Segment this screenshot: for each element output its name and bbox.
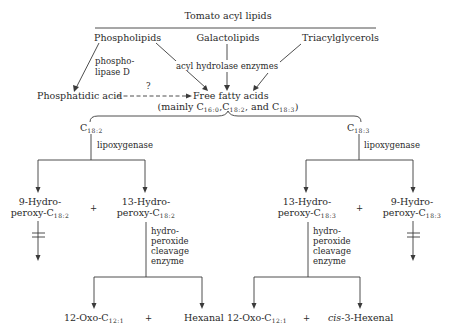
subscript: 18:2 (230, 106, 245, 113)
subscript: 12:1 (272, 317, 287, 324)
subscript: 16:0 (204, 106, 219, 113)
note-text: ,C (219, 101, 229, 112)
line2: peroxy-C18:2 (11, 207, 70, 221)
free-fatty-acids-note: (mainly C16:0,C18:2, and C18:3) (158, 101, 299, 115)
subscript: 18:3 (321, 212, 336, 219)
node-triacylglycerols: Triacylglycerols (302, 32, 379, 43)
product-12-oxo-c12-1-right: 12-Oxo-C12:1 (227, 312, 287, 326)
arrowhead (200, 303, 205, 309)
pathway-connectors (0, 0, 458, 333)
formula-base: peroxy-C (11, 207, 54, 218)
node-9-hydroperoxy-c18-2: 9-Hydro- peroxy-C18:2 (11, 196, 70, 221)
arrowhead (36, 187, 41, 193)
arrowhead (143, 187, 148, 193)
line1: 9-Hydro- (11, 196, 70, 207)
arrowhead (358, 303, 363, 309)
subscript: 18:2 (160, 212, 175, 219)
line: enzyme (313, 256, 351, 266)
node-c18-2: C18:2 (80, 122, 103, 136)
line: peroxide (313, 236, 351, 246)
arrowhead (186, 94, 192, 99)
arrowhead (92, 303, 97, 309)
note-text: ) (295, 101, 299, 112)
line1: 13-Hydro- (117, 196, 176, 207)
node-phosphatidic-acid: Phosphatidic acid (37, 90, 122, 101)
node-13-hydroperoxy-c18-3: 13-Hydro- peroxy-C18:3 (278, 196, 337, 221)
arrow-triacylglycerols-to-ffa-2 (256, 73, 268, 88)
line: hydro- (313, 226, 351, 236)
node-free-fatty-acids: Free fatty acids (193, 90, 269, 101)
enzyme-lipoxygenase-left: lipoxygenase (97, 140, 153, 150)
formula-base: -3-Hexenal (341, 312, 393, 323)
plus-sign: + (303, 313, 310, 323)
line: cleavage (151, 246, 189, 256)
note-text: (mainly C (158, 101, 204, 112)
node-phospholipids: Phospholipids (94, 32, 161, 43)
line1: 9-Hydro- (383, 196, 442, 207)
plus-sign: + (356, 203, 363, 213)
enzyme-hydroperoxide-cleavage-right: hydro- peroxide cleavage enzyme (313, 226, 351, 266)
node-galactolipids: Galactolipids (197, 32, 260, 43)
line2: peroxy-C18:3 (383, 207, 442, 221)
subscript: 18:3 (279, 106, 294, 113)
arrowhead (411, 187, 416, 193)
enzyme-phospholipase-d-line1: phospho- (95, 56, 134, 66)
product-cis-3-hexenal: cis-3-Hexenal (328, 312, 393, 323)
arrowhead (36, 255, 41, 261)
cis-prefix: cis (328, 312, 341, 323)
formula-base: peroxy-C (383, 207, 426, 218)
subscript: 18:2 (87, 127, 102, 134)
node-13-hydroperoxy-c18-2: 13-Hydro- peroxy-C18:2 (117, 196, 176, 221)
node-9-hydroperoxy-c18-3: 9-Hydro- peroxy-C18:3 (383, 196, 442, 221)
arrowhead (304, 187, 309, 193)
product-hexanal: Hexanal (184, 312, 224, 323)
enzyme-hydroperoxide-cleavage-left: hydro- peroxide cleavage enzyme (151, 226, 189, 266)
note-text: , and C (245, 101, 279, 112)
line2: peroxy-C18:2 (117, 207, 176, 221)
arrow-triacylglycerols-to-ffa (280, 44, 301, 62)
formula-base: peroxy-C (117, 207, 160, 218)
formula-base: peroxy-C (278, 207, 321, 218)
node-c18-3: C18:3 (347, 122, 370, 136)
subscript: 18:3 (354, 127, 369, 134)
line: enzyme (151, 256, 189, 266)
arrowhead (411, 255, 416, 261)
line: hydro- (151, 226, 189, 236)
diagram-title: Tomato acyl lipids (184, 10, 271, 21)
line: peroxide (151, 236, 189, 246)
line: cleavage (313, 246, 351, 256)
subscript: 12:1 (109, 317, 124, 324)
product-12-oxo-c12-1-left: 12-Oxo-C12:1 (64, 312, 124, 326)
enzyme-phospholipase-d-line2: lipase D (95, 67, 130, 77)
subscript: 18:3 (426, 212, 441, 219)
plus-sign: + (145, 313, 152, 323)
enzyme-lipoxygenase-right: lipoxygenase (364, 140, 420, 150)
formula-base: 12-Oxo-C (227, 312, 272, 323)
line1: 13-Hydro- (278, 196, 337, 207)
formula-base: 12-Oxo-C (64, 312, 109, 323)
enzyme-acyl-hydrolase: acyl hydrolase enzymes (174, 61, 280, 71)
line2: peroxy-C18:3 (278, 207, 337, 221)
plus-sign: + (90, 203, 97, 213)
arrowhead (252, 303, 257, 309)
subscript: 18:2 (54, 212, 69, 219)
unknown-step-mark: ? (146, 81, 151, 91)
